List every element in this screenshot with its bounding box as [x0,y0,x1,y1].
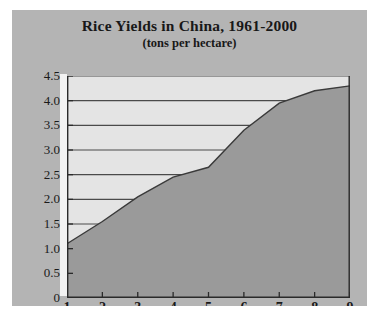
x-tick-label: 4 [170,300,177,306]
x-axis: 123456789 [67,300,350,306]
x-tick-label: 8 [311,300,318,306]
chart-figure: Rice Yields in China, 1961-2000 (tons pe… [12,10,367,306]
x-tick-label: 5 [205,300,212,306]
y-axis: 00.51.01.52.02.53.03.54.04.5 [26,76,60,298]
area-chart-svg [67,76,350,298]
data-area [67,86,350,298]
y-tick-label: 1.0 [44,241,60,257]
area-fill [67,86,350,298]
x-tick-label: 7 [276,300,283,306]
y-tick-label: 2.0 [44,191,60,207]
y-tick-label: 2.5 [44,167,60,183]
chart-subtitle: (tons per hectare) [12,35,367,51]
axis-gutter [60,74,67,296]
x-tick-label: 6 [240,300,247,306]
plot-area [67,76,350,298]
y-tick-label: 4.0 [44,93,60,109]
y-tick-label: 0 [54,290,61,306]
chart-title-block: Rice Yields in China, 1961-2000 (tons pe… [12,16,367,51]
x-tick-label: 1 [64,300,71,306]
x-tick-label: 3 [134,300,141,306]
x-tick-label: 2 [99,300,106,306]
y-tick-label: 3.0 [44,142,60,158]
y-tick-label: 0.5 [44,265,60,281]
page-title: Rice Yields in China, 1961-2000 [12,16,367,35]
y-tick-label: 1.5 [44,216,60,232]
y-tick-label: 3.5 [44,117,60,133]
x-tick-label: 9 [347,300,354,306]
y-tick-label: 4.5 [44,68,60,84]
